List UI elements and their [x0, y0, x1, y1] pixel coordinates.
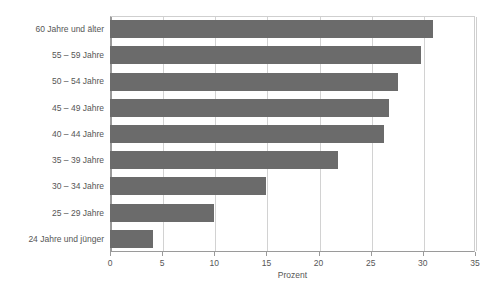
bar [110, 73, 398, 91]
bar [110, 151, 338, 169]
x-tick-mark [214, 252, 215, 256]
x-tick-mark [266, 252, 267, 256]
category-label: 25 – 29 Jahre [0, 200, 104, 226]
x-tick-label: 20 [314, 258, 323, 268]
x-tick-label: 30 [418, 258, 427, 268]
x-tick-label: 10 [210, 258, 219, 268]
category-label: 50 – 54 Jahre [0, 68, 104, 94]
x-tick-label: 25 [366, 258, 375, 268]
bar-row [110, 173, 475, 199]
x-tick-label: 5 [160, 258, 165, 268]
x-tick-label: 0 [108, 258, 113, 268]
category-axis-labels: 60 Jahre und älter55 – 59 Jahre50 – 54 J… [0, 16, 104, 252]
bar [110, 204, 214, 222]
x-tick-label: 35 [470, 258, 479, 268]
category-label: 30 – 34 Jahre [0, 173, 104, 199]
bar-row [110, 42, 475, 68]
x-tick-mark [371, 252, 372, 256]
x-axis: 05101520253035 [110, 252, 475, 272]
category-label: 60 Jahre und älter [0, 16, 104, 42]
category-label: 45 – 49 Jahre [0, 95, 104, 121]
bar-row [110, 68, 475, 94]
bar-chart: 60 Jahre und älter55 – 59 Jahre50 – 54 J… [0, 0, 495, 297]
x-tick-mark [319, 252, 320, 256]
x-tick-label: 15 [262, 258, 271, 268]
bar [110, 46, 421, 64]
x-tick-mark [162, 252, 163, 256]
x-tick-mark [110, 252, 111, 256]
bar [110, 99, 389, 117]
bar-row [110, 16, 475, 42]
category-label: 40 – 44 Jahre [0, 121, 104, 147]
category-label: 55 – 59 Jahre [0, 42, 104, 68]
bar [110, 177, 266, 195]
bar-row [110, 95, 475, 121]
bar-row [110, 226, 475, 252]
gridline-35 [476, 17, 477, 251]
category-label: 35 – 39 Jahre [0, 147, 104, 173]
x-axis-title: Prozent [110, 270, 475, 280]
category-label: 24 Jahre und jünger [0, 226, 104, 252]
bar-row [110, 200, 475, 226]
bar [110, 20, 433, 38]
bar [110, 125, 384, 143]
x-tick-mark [475, 252, 476, 256]
bar [110, 230, 153, 248]
x-tick-mark [423, 252, 424, 256]
bars-layer [110, 16, 475, 252]
bar-row [110, 147, 475, 173]
bar-row [110, 121, 475, 147]
